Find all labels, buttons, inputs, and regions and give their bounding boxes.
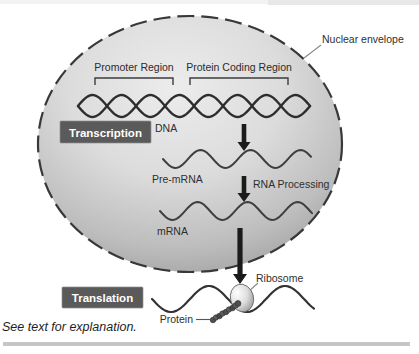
promoter-region-label: Promoter Region [94, 61, 174, 73]
translation-label: Translation [72, 292, 133, 304]
dna-label: DNA [155, 122, 177, 134]
figure-caption: See text for explanation. [2, 320, 137, 334]
bottom-rule [3, 342, 410, 346]
protein-label: Protein [160, 313, 193, 325]
pre-mrna-label: Pre-mRNA [152, 173, 203, 185]
nuclear-envelope-label: Nuclear envelope [322, 33, 404, 45]
transcription-label: Transcription [69, 127, 142, 139]
ribosome-label: Ribosome [256, 272, 303, 284]
protein-coding-region-label: Protein Coding Region [186, 61, 292, 73]
protein-chain-icon [210, 301, 241, 323]
top-rule-right [268, 0, 419, 5]
nuclear-envelope-pointer-line [304, 45, 321, 58]
rna-processing-label: RNA Processing [253, 178, 330, 190]
gene-expression-diagram: Nuclear envelope Promoter Region Protein… [0, 0, 419, 354]
nucleus [38, 16, 342, 272]
mrna-label: mRNA [157, 225, 188, 237]
